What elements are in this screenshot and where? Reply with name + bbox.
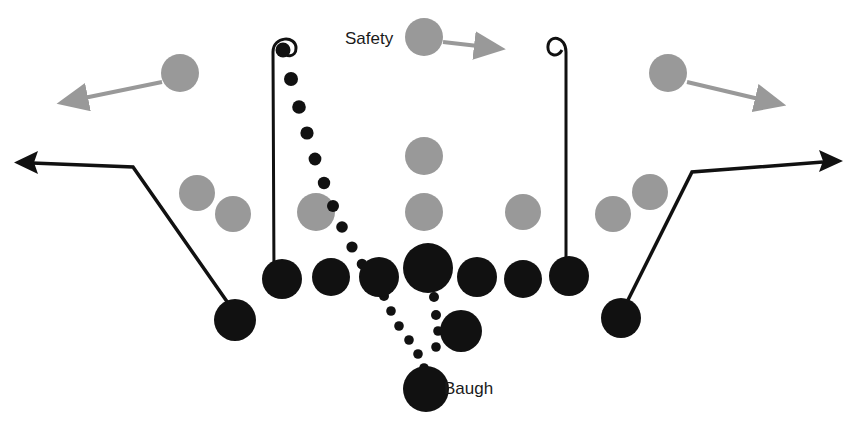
pass-dot [336,221,348,233]
pass-branch-dot [431,310,441,320]
defender-left-outer-linebacker [179,175,215,211]
offense-tailback-baugh [403,366,449,412]
play-diagram-canvas: Safety Baugh [0,0,858,426]
pass-branch-dot [429,292,439,302]
safety-label: Safety [345,29,394,48]
right-end-hook-route [548,38,566,276]
play-diagram: Safety Baugh [0,0,858,426]
offense-fullback [440,310,482,352]
defender-right-outer-linebacker [632,174,668,210]
offense-left-end [262,259,302,299]
defender-right-line-tackle [505,194,541,230]
pass-dot [346,241,357,252]
offense-right-end [549,256,589,296]
pass-dot [413,349,423,359]
defender-right-defensive-back [649,54,687,92]
left-defensive-back-motion-arrow [84,82,162,98]
offense-left-tackle [312,258,350,296]
offense-center [403,243,453,293]
offense-right-tackle [504,260,542,298]
offense-left-halfback [214,299,256,341]
pass-dot [292,100,306,114]
defender-left-defensive-back [161,54,199,92]
pass-dot [327,200,339,212]
defender-right-inner-linebacker [595,196,631,232]
defender-middle-high-lineman [405,137,443,175]
safety-motion-arrow [443,42,478,46]
offense-right-guard [457,257,497,297]
offense-players-layer [214,243,641,412]
pass-dot [386,306,396,316]
baugh-label: Baugh [444,379,493,398]
pass-branch-dot [431,342,441,352]
pass-dot [318,177,330,189]
pass-dot [309,153,322,166]
offense-right-halfback [601,298,641,338]
pass-dot [300,126,313,139]
offense-left-guard [359,257,399,297]
defender-left-inner-linebacker [215,196,251,232]
right-defensive-back-motion-arrow [687,82,759,99]
pass-dot [404,335,414,345]
defense-players-layer [161,18,687,232]
pass-dot [276,43,291,58]
pass-dot [394,321,404,331]
defender-middle-low-lineman [405,193,443,231]
defender-left-line-tackle [297,193,335,231]
pass-dot [284,72,298,86]
defender-safety [405,18,443,56]
